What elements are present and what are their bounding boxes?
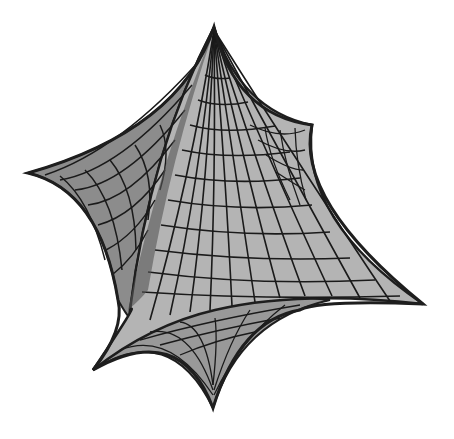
- mesh-surface-figure: [0, 0, 454, 439]
- surface-svg: [0, 0, 454, 439]
